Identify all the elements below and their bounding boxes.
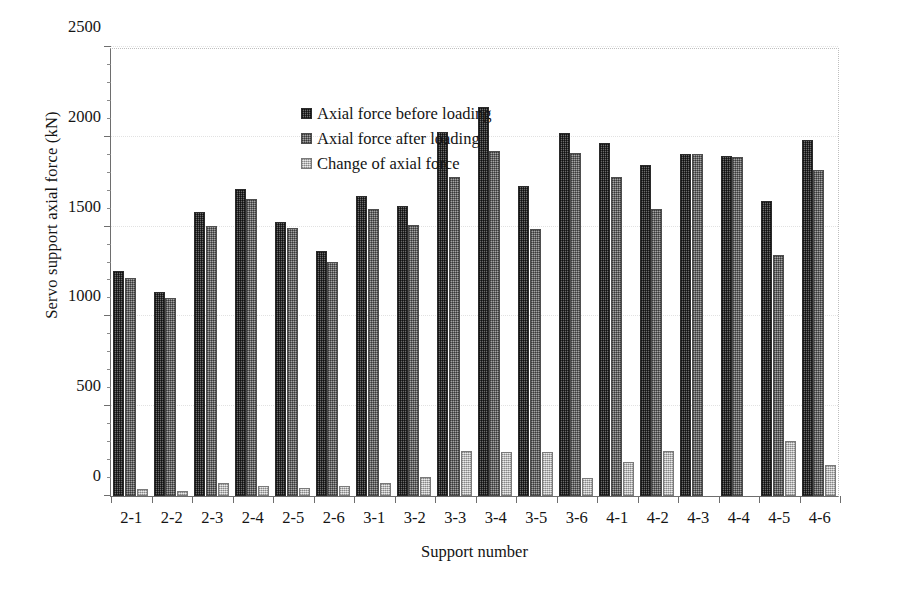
y-tick-minor-200 xyxy=(107,459,111,460)
bar-chart-figure: Servo support axial force (kN) 050010001… xyxy=(0,0,904,593)
x-tick-end xyxy=(840,496,841,503)
bar-4-1-series1 xyxy=(599,143,610,496)
bar-2-1-series1 xyxy=(113,271,124,496)
bar-4-3-series1 xyxy=(680,154,691,496)
y-tick-minor-700 xyxy=(107,369,111,370)
x-tick-2-1 xyxy=(111,496,112,503)
y-tick-minor-1200 xyxy=(107,279,111,280)
bar-3-1-series2 xyxy=(368,209,379,496)
y-tick-minor-1900 xyxy=(107,154,111,155)
y-tick-minor-1100 xyxy=(107,297,111,298)
legend: Axial force before loadingAxial force af… xyxy=(301,101,492,176)
series-1-swatch xyxy=(301,108,312,119)
y-tick-minor-400 xyxy=(107,423,111,424)
legend-label-3: Change of axial force xyxy=(317,151,459,176)
y-tick-minor-2400 xyxy=(107,64,111,65)
x-tick-3-2 xyxy=(395,496,396,503)
bar-2-2-series3 xyxy=(177,491,188,496)
x-tick-4-4 xyxy=(719,496,720,503)
bar-3-1-series3 xyxy=(380,483,391,496)
y-tick-major-500 xyxy=(104,405,111,406)
y-tick-label-500: 500 xyxy=(76,376,101,396)
legend-label-2: Axial force after loading xyxy=(317,126,480,151)
bar-2-1-series3 xyxy=(137,489,148,496)
x-tick-4-1 xyxy=(597,496,598,503)
bar-3-4-series3 xyxy=(501,452,512,496)
x-tick-label-4-3: 4-3 xyxy=(687,508,709,528)
bar-2-4-series3 xyxy=(258,486,269,496)
x-axis-title: Support number xyxy=(110,542,839,562)
bar-2-6-series1 xyxy=(316,251,327,496)
bar-2-2-series1 xyxy=(154,292,165,496)
bar-3-1-series1 xyxy=(356,196,367,496)
bar-3-4-series2 xyxy=(489,151,500,496)
bar-4-2-series1 xyxy=(640,165,651,496)
series-3-swatch xyxy=(301,158,312,169)
y-tick-minor-1400 xyxy=(107,244,111,245)
x-tick-2-3 xyxy=(192,496,193,503)
x-tick-4-6 xyxy=(800,496,801,503)
x-tick-4-5 xyxy=(759,496,760,503)
x-tick-3-3 xyxy=(435,496,436,503)
y-tick-major-1000 xyxy=(104,315,111,316)
x-tick-label-4-5: 4-5 xyxy=(768,508,790,528)
bar-2-3-series2 xyxy=(206,226,217,496)
bar-4-6-series1 xyxy=(802,140,813,497)
x-tick-4-2 xyxy=(638,496,639,503)
y-tick-major-2500 xyxy=(104,46,111,47)
x-tick-label-2-5: 2-5 xyxy=(282,508,304,528)
x-tick-2-2 xyxy=(152,496,153,503)
bar-3-2-series1 xyxy=(397,206,408,496)
bar-4-2-series2 xyxy=(651,209,662,496)
y-tick-minor-100 xyxy=(107,477,111,478)
y-tick-minor-1800 xyxy=(107,172,111,173)
legend-item-3: Change of axial force xyxy=(301,151,492,176)
x-tick-3-1 xyxy=(354,496,355,503)
bar-4-5-series3 xyxy=(785,441,796,496)
y-tick-minor-600 xyxy=(107,387,111,388)
plot-area: 05001000150020002500 2-12-22-32-42-52-63… xyxy=(110,48,839,497)
x-tick-label-3-5: 3-5 xyxy=(525,508,547,528)
x-tick-3-5 xyxy=(516,496,517,503)
x-tick-label-4-4: 4-4 xyxy=(728,508,750,528)
legend-item-2: Axial force after loading xyxy=(301,126,492,151)
bar-4-6-series3 xyxy=(825,465,836,496)
x-tick-label-3-6: 3-6 xyxy=(566,508,588,528)
y-tick-minor-300 xyxy=(107,441,111,442)
y-tick-label-1500: 1500 xyxy=(68,197,101,217)
x-tick-label-2-2: 2-2 xyxy=(161,508,183,528)
bar-3-5-series1 xyxy=(518,186,529,496)
bar-3-6-series1 xyxy=(559,133,570,496)
bar-2-5-series1 xyxy=(275,222,286,496)
x-tick-2-5 xyxy=(273,496,274,503)
bar-2-5-series3 xyxy=(299,488,310,496)
y-tick-minor-2300 xyxy=(107,82,111,83)
x-tick-4-3 xyxy=(678,496,679,503)
bar-2-4-series1 xyxy=(235,189,246,496)
x-tick-label-4-2: 4-2 xyxy=(647,508,669,528)
bar-4-1-series2 xyxy=(611,177,622,496)
bar-4-1-series3 xyxy=(623,462,634,496)
x-tick-label-3-2: 3-2 xyxy=(404,508,426,528)
y-tick-minor-2100 xyxy=(107,118,111,119)
x-tick-label-4-6: 4-6 xyxy=(809,508,831,528)
x-tick-label-3-3: 3-3 xyxy=(444,508,466,528)
x-tick-3-4 xyxy=(476,496,477,503)
bar-2-5-series2 xyxy=(287,228,298,496)
bar-4-4-series2 xyxy=(732,157,743,496)
y-tick-minor-2200 xyxy=(107,100,111,101)
bar-2-3-series1 xyxy=(194,212,205,496)
bar-2-6-series2 xyxy=(327,262,338,496)
bar-3-3-series2 xyxy=(449,177,460,496)
x-tick-label-4-1: 4-1 xyxy=(606,508,628,528)
bar-3-3-series1 xyxy=(437,132,448,496)
bar-4-4-series1 xyxy=(721,156,732,496)
y-tick-major-0 xyxy=(104,495,111,496)
y-tick-minor-1600 xyxy=(107,208,111,209)
gridline-2500 xyxy=(111,46,838,47)
bar-2-4-series2 xyxy=(246,199,257,496)
bar-4-5-series1 xyxy=(761,201,772,496)
x-tick-2-6 xyxy=(314,496,315,503)
bar-4-2-series3 xyxy=(663,451,674,496)
y-tick-label-1000: 1000 xyxy=(68,286,101,306)
